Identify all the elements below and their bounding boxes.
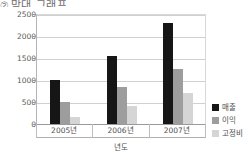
x-axis: 2005년2006년2007년 [36,124,206,138]
x-axis-tick-label: 2007년 [149,126,205,136]
bars-layer [37,14,206,124]
chart-page: ②막대 그래프 25002000150010005000 2005년2006년2… [0,0,250,160]
legend-swatch-icon [212,117,219,124]
bar-고정비-2007년[interactable] [183,93,193,124]
legend-item-매출[interactable]: 매출 [212,101,250,114]
legend-item-고정비[interactable]: 고정비 [212,127,250,140]
bar-고정비-2005년[interactable] [70,117,80,124]
bar-이익-2005년[interactable] [60,102,70,124]
bar-고정비-2006년[interactable] [127,106,137,124]
legend-label: 고정비 [222,129,243,138]
x-axis-tick-label: 2006년 [93,126,149,136]
bar-group [163,14,193,124]
bar-매출-2006년[interactable] [107,56,117,124]
x-axis-title: 년도 [36,141,206,152]
x-axis-separator [149,124,150,138]
x-axis-tick-label: 2005년 [36,126,92,136]
x-axis-separator [36,124,37,138]
bar-매출-2007년[interactable] [163,23,173,124]
bar-매출-2005년[interactable] [50,80,60,124]
bar-이익-2007년[interactable] [173,69,183,124]
x-axis-separator [92,124,93,138]
x-axis-separator [205,124,206,138]
legend-label: 이익 [222,116,236,125]
legend-swatch-icon [212,104,219,111]
legend-label: 매출 [222,103,236,112]
legend-item-이익[interactable]: 이익 [212,114,250,127]
bar-이익-2006년[interactable] [117,87,127,124]
bar-group [50,14,80,124]
legend-swatch-icon [212,130,219,137]
chart-legend: 매출이익고정비 [212,101,250,140]
y-axis: 25002000150010005000 [0,0,36,160]
bar-group [107,14,137,124]
